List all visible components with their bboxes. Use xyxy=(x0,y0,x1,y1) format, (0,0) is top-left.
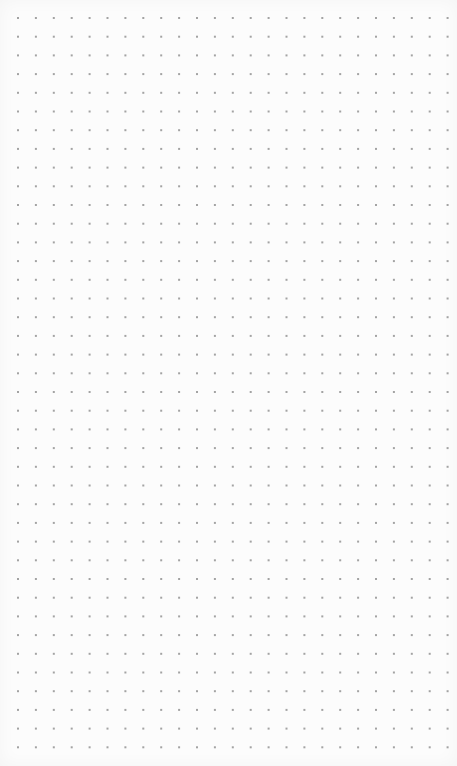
grid-dot xyxy=(429,148,431,150)
grid-dot xyxy=(214,728,216,730)
grid-dot xyxy=(268,36,270,38)
grid-dot xyxy=(339,354,341,356)
grid-dot xyxy=(142,428,144,430)
grid-dot xyxy=(268,241,270,243)
grid-dot xyxy=(178,279,180,281)
dot-grid-canvas[interactable] xyxy=(0,0,457,766)
grid-dot xyxy=(178,391,180,393)
grid-dot xyxy=(303,335,305,337)
grid-dot xyxy=(142,485,144,487)
grid-dot xyxy=(375,578,377,580)
grid-dot xyxy=(160,73,162,75)
grid-dot xyxy=(196,428,198,430)
grid-dot xyxy=(411,728,413,730)
grid-dot xyxy=(393,241,395,243)
grid-dot xyxy=(411,615,413,617)
grid-dot xyxy=(393,578,395,580)
grid-dot xyxy=(35,559,37,561)
grid-dot xyxy=(339,522,341,524)
grid-dot xyxy=(124,746,126,748)
grid-dot xyxy=(178,92,180,94)
grid-dot xyxy=(35,17,37,19)
grid-dot xyxy=(321,746,323,748)
grid-dot xyxy=(232,559,234,561)
grid-dot xyxy=(196,111,198,113)
grid-dot xyxy=(250,653,252,655)
grid-dot xyxy=(107,298,109,300)
grid-dot xyxy=(303,672,305,674)
grid-dot xyxy=(107,241,109,243)
grid-dot xyxy=(232,447,234,449)
grid-dot xyxy=(339,559,341,561)
grid-dot xyxy=(339,204,341,206)
grid-dot xyxy=(160,204,162,206)
grid-dot xyxy=(268,503,270,505)
grid-dot xyxy=(214,690,216,692)
grid-dot xyxy=(339,485,341,487)
grid-dot xyxy=(232,428,234,430)
grid-dot xyxy=(232,503,234,505)
grid-dot xyxy=(178,466,180,468)
grid-dot xyxy=(124,204,126,206)
grid-dot xyxy=(107,354,109,356)
grid-dot xyxy=(268,690,270,692)
grid-dot xyxy=(232,709,234,711)
grid-dot xyxy=(411,578,413,580)
grid-dot xyxy=(286,73,288,75)
grid-dot xyxy=(89,746,91,748)
grid-dot xyxy=(17,36,19,38)
grid-dot xyxy=(286,746,288,748)
grid-dot xyxy=(17,241,19,243)
grid-dot xyxy=(357,73,359,75)
grid-dot xyxy=(447,690,449,692)
grid-dot xyxy=(339,410,341,412)
grid-dot xyxy=(214,279,216,281)
grid-dot xyxy=(411,316,413,318)
grid-dot xyxy=(339,428,341,430)
grid-dot xyxy=(107,54,109,56)
grid-dot xyxy=(89,559,91,561)
grid-dot xyxy=(107,279,109,281)
grid-dot xyxy=(357,597,359,599)
grid-dot xyxy=(53,709,55,711)
grid-dot xyxy=(232,410,234,412)
grid-dot xyxy=(375,335,377,337)
grid-dot xyxy=(429,204,431,206)
grid-dot xyxy=(357,728,359,730)
grid-dot xyxy=(339,615,341,617)
grid-dot xyxy=(232,354,234,356)
grid-dot xyxy=(124,503,126,505)
grid-dot xyxy=(160,298,162,300)
grid-dot xyxy=(321,241,323,243)
grid-dot xyxy=(447,129,449,131)
grid-dot xyxy=(375,73,377,75)
grid-dot xyxy=(429,709,431,711)
grid-dot xyxy=(375,111,377,113)
grid-dot xyxy=(124,279,126,281)
grid-dot xyxy=(447,316,449,318)
grid-dot xyxy=(268,447,270,449)
grid-dot xyxy=(142,615,144,617)
grid-dot xyxy=(321,653,323,655)
grid-dot xyxy=(339,73,341,75)
grid-dot xyxy=(357,578,359,580)
grid-dot xyxy=(339,728,341,730)
grid-dot xyxy=(357,690,359,692)
grid-dot xyxy=(321,447,323,449)
grid-dot xyxy=(268,597,270,599)
grid-dot xyxy=(429,185,431,187)
grid-dot xyxy=(142,316,144,318)
grid-dot xyxy=(71,167,73,169)
grid-dot xyxy=(375,316,377,318)
grid-dot xyxy=(124,728,126,730)
grid-dot xyxy=(447,503,449,505)
grid-dot xyxy=(160,129,162,131)
grid-dot xyxy=(178,728,180,730)
grid-dot xyxy=(107,148,109,150)
grid-dot xyxy=(35,335,37,337)
grid-dot xyxy=(17,279,19,281)
grid-dot xyxy=(286,241,288,243)
grid-dot xyxy=(107,653,109,655)
grid-dot xyxy=(393,746,395,748)
grid-dot xyxy=(124,485,126,487)
